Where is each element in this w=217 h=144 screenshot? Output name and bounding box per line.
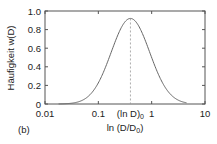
x-axis: 0.010.1110 [36, 11, 211, 119]
y-axis: 00.20.40.60.81.0 [28, 6, 205, 110]
x-tick-label: 10 [200, 108, 211, 119]
x-tick-label: 0.1 [92, 108, 105, 119]
x-tick-label: 0.01 [36, 108, 55, 119]
y-tick-label: 0.8 [28, 24, 41, 35]
chart: 00.20.40.60.81.0 0.010.1110 (ln D)0 Häuf… [0, 0, 217, 144]
x-tick-label: 1 [149, 108, 154, 119]
y-tick-label: 0.4 [28, 61, 41, 72]
distribution-curve [59, 18, 187, 103]
peak-annotation: (ln D)0 [117, 18, 144, 120]
plot-frame [45, 11, 205, 104]
y-tick-label: 0.6 [28, 43, 41, 54]
curve-line [59, 18, 187, 103]
peak-label: (ln D)0 [117, 108, 144, 120]
plot-area [45, 11, 205, 104]
y-tick-label: 0.2 [28, 80, 41, 91]
x-axis-title: ln (D/D0) [107, 122, 144, 134]
y-axis-title: Häufigkeit w(D) [5, 26, 16, 91]
y-tick-label: 1.0 [28, 6, 41, 17]
panel-label: (b) [18, 124, 30, 135]
